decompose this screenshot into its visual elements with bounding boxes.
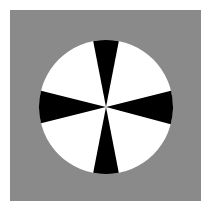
screenshot-root bbox=[0, 0, 211, 223]
pinwheel-figure bbox=[0, 0, 211, 223]
